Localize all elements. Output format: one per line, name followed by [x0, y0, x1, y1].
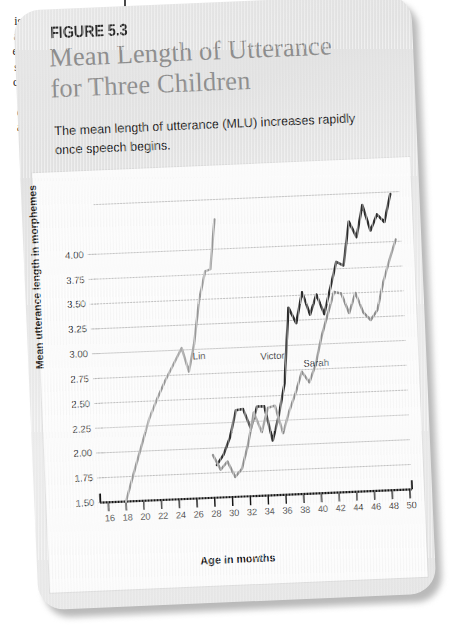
x-tick-label: 24 — [173, 510, 189, 521]
y-tick-label: 3.50 — [46, 298, 86, 311]
figure-card: FIGURE 5.3 Mean Length of Utterance for … — [13, 0, 443, 618]
y-tick-label: 1.75 — [53, 472, 93, 485]
x-tick-label: 30 — [226, 508, 242, 519]
x-tick-label: 36 — [279, 505, 295, 516]
x-tick-label: 16 — [102, 513, 118, 524]
x-tick-label: 22 — [155, 511, 171, 522]
series-line-lin — [114, 219, 226, 501]
figure-screenshot: is at es s; c- f e a FIGURE 5.3 Mean Len… — [0, 0, 456, 628]
x-tick-label: 18 — [119, 512, 135, 523]
y-tick-label: 3.75 — [45, 274, 85, 287]
x-tick-label: 44 — [350, 502, 366, 513]
y-tick-label: 2.75 — [49, 373, 89, 386]
x-tick-label: 42 — [332, 503, 348, 514]
y-tick-label: 3.00 — [48, 348, 88, 361]
x-tick-label: 20 — [137, 511, 153, 522]
x-tick-label: 48 — [386, 501, 402, 512]
figure-title: Mean Length of Utterance for Three Child… — [49, 28, 396, 105]
y-tick-label: 2.00 — [52, 447, 92, 460]
line-chart-svg — [32, 157, 428, 593]
x-tick-label: 40 — [315, 504, 331, 515]
x-tick-label: 34 — [261, 506, 277, 517]
series-line-victor — [206, 194, 402, 465]
series-label-sarah: Sarah — [303, 357, 329, 369]
figure-caption: The mean length of utterance (MLU) incre… — [54, 108, 385, 160]
series-label-victor: Victor — [260, 350, 285, 362]
x-tick-label: 32 — [244, 507, 260, 518]
x-tick-label: 26 — [190, 509, 206, 520]
y-tick-label: 3.25 — [47, 323, 87, 336]
x-tick-label: 28 — [208, 508, 224, 519]
x-tick-label: 38 — [297, 505, 313, 516]
x-tick-label: 50 — [403, 500, 419, 511]
y-tick-label: 4.00 — [43, 249, 83, 262]
y-tick-label: 2.50 — [50, 398, 90, 411]
x-tick-label: 46 — [368, 502, 384, 513]
series-label-lin: Lin — [192, 350, 205, 362]
y-tick-label: 1.50 — [54, 497, 94, 510]
y-tick-label: 2.25 — [51, 422, 91, 435]
chart-plot-area: Mean utterance length in morphemes Age i… — [32, 157, 428, 593]
